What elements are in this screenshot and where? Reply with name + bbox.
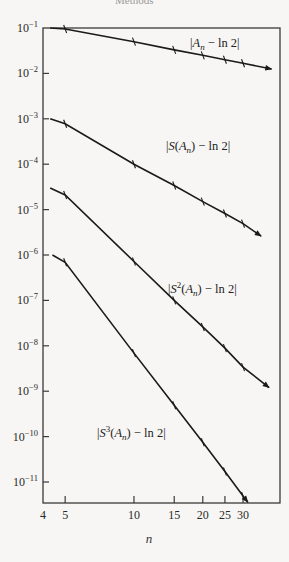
x-tick-label: 30	[237, 508, 249, 522]
y-tick-label: 10−10	[13, 428, 38, 444]
x-tick-label: 25	[219, 508, 231, 522]
y-tick-label: 10−5	[17, 201, 38, 217]
x-tick-label: 10	[128, 508, 140, 522]
x-tick-label: 5	[62, 508, 68, 522]
y-tick-label: 10−7	[17, 291, 38, 307]
y-tick-label: 10−4	[17, 155, 39, 171]
y-tick-label: 10−1	[17, 19, 38, 35]
x-axis: 451015202530	[40, 496, 249, 522]
data-point-marker	[223, 468, 226, 476]
y-tick-label: 10−6	[17, 246, 38, 262]
cut-off-header: Methods	[115, 0, 154, 6]
data-point-marker	[132, 349, 135, 357]
x-tick-label: 4	[40, 508, 46, 522]
series-2	[50, 119, 261, 236]
x-axis-title: n	[146, 531, 153, 546]
series-label-4: |S3(An) − ln 2|	[97, 424, 166, 442]
series-label-3: |S2(An) − ln 2|	[168, 280, 237, 298]
y-tick-label: 10−8	[17, 337, 38, 353]
x-tick-label: 15	[168, 508, 180, 522]
series-line	[50, 119, 261, 236]
series-labels: |An − ln 2||S(An) − ln 2||S2(An) − ln 2|…	[97, 36, 240, 442]
y-tick-label: 10−3	[17, 110, 38, 126]
series-label-1: |An − ln 2|	[190, 36, 240, 52]
log-log-convergence-chart: Methods 10−110−210−310−410−510−610−710−8…	[0, 0, 289, 562]
x-tick-label: 20	[197, 508, 209, 522]
y-tick-label: 10−11	[13, 473, 38, 489]
data-point-marker	[201, 438, 204, 446]
y-tick-label: 10−2	[17, 64, 38, 80]
y-tick-label: 10−9	[17, 382, 38, 398]
data-point-marker	[173, 401, 176, 409]
series-label-2: |S(An) − ln 2|	[166, 139, 230, 155]
